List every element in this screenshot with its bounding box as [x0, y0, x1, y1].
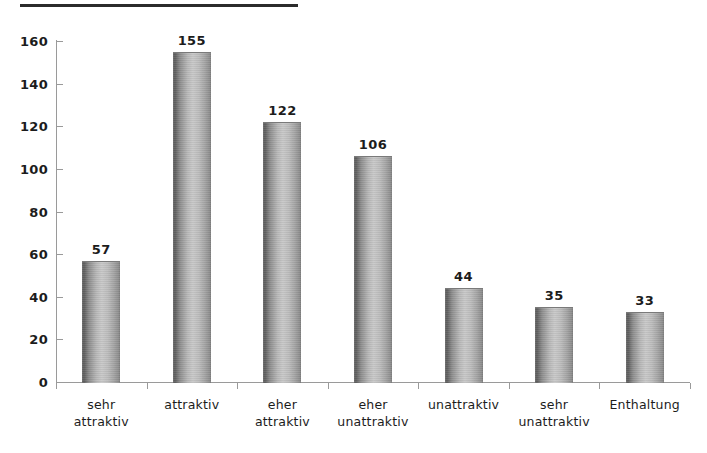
- y-axis-tick-mark: [57, 339, 63, 340]
- y-axis-tick-mark: [57, 169, 63, 170]
- y-axis-tick-label: 100: [0, 163, 48, 176]
- x-axis-tick-mark: [418, 383, 419, 389]
- bar-column: [535, 307, 573, 383]
- y-axis-tick-label: 20: [0, 333, 48, 346]
- x-axis-tick-mark: [599, 383, 600, 389]
- x-axis-tick-mark: [509, 383, 510, 389]
- category-label-line: Enthaltung: [590, 396, 700, 413]
- bar-value-label: 44: [424, 270, 504, 283]
- x-axis-tick-mark: [328, 383, 329, 389]
- y-axis-tick-mark: [57, 84, 63, 85]
- bar-value-label: 122: [242, 104, 322, 117]
- category-label-line: unattraktiv: [318, 413, 428, 430]
- bar-value-label: 35: [514, 289, 594, 302]
- category-label-line: attraktiv: [46, 413, 156, 430]
- bar-column: [173, 52, 211, 383]
- y-axis-tick-label: 0: [0, 376, 48, 389]
- x-axis-tick-mark: [56, 383, 57, 389]
- bar-value-label: 155: [152, 34, 232, 47]
- x-axis-category-label: Enthaltung: [590, 396, 700, 413]
- bar-column: [354, 156, 392, 383]
- y-axis-tick-mark: [57, 212, 63, 213]
- category-label-line: unattraktiv: [499, 413, 609, 430]
- y-axis-tick-label: 120: [0, 120, 48, 133]
- y-axis-tick-label: 40: [0, 291, 48, 304]
- bar-column: [626, 312, 664, 383]
- y-axis-tick-label: 80: [0, 206, 48, 219]
- y-axis-tick-label: 140: [0, 78, 48, 91]
- x-axis-tick-mark: [237, 383, 238, 389]
- y-axis-tick-mark: [57, 41, 63, 42]
- y-axis-tick-mark: [57, 297, 63, 298]
- y-axis-tick-mark: [57, 382, 63, 383]
- bar-value-label: 106: [333, 138, 413, 151]
- bar-value-label: 33: [605, 294, 685, 307]
- bar-column: [445, 288, 483, 383]
- y-axis-tick-label: 160: [0, 35, 48, 48]
- y-axis-tick-mark: [57, 126, 63, 127]
- x-axis-tick-mark: [690, 383, 691, 389]
- bar-value-label: 57: [61, 243, 141, 256]
- bar-column: [263, 122, 301, 383]
- y-axis-tick-label: 60: [0, 248, 48, 261]
- bar-column: [82, 261, 120, 383]
- bar-chart: 020406080100120140160 57155122106443533 …: [0, 0, 707, 453]
- x-axis-tick-mark: [147, 383, 148, 389]
